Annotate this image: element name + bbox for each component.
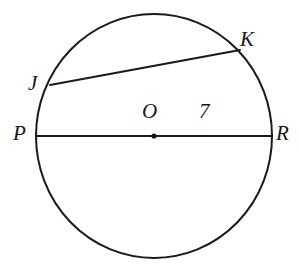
point-label-r: R — [276, 123, 289, 144]
radius-measure-label: 7 — [199, 101, 210, 122]
point-label-p: P — [13, 123, 26, 144]
geometry-canvas — [0, 0, 300, 271]
chord-segment-JK — [50, 50, 240, 85]
point-label-j: J — [28, 73, 37, 94]
center-point-dot — [151, 133, 156, 138]
point-label-k: K — [240, 29, 254, 50]
center-point-label-o: O — [142, 101, 157, 122]
geometry-figure: P R J K O 7 — [0, 0, 300, 271]
